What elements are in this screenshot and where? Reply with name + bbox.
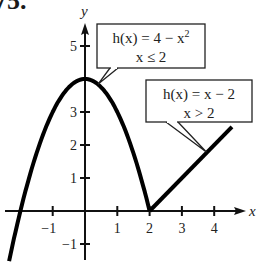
x-tick-label: 3 bbox=[178, 221, 185, 236]
y-tick-label: 1 bbox=[70, 171, 77, 186]
callout-line-2: x ≤ 2 bbox=[136, 49, 167, 65]
callout-line: h(x) = x − 2x > 2 bbox=[146, 80, 252, 152]
x-tick-label: −1 bbox=[41, 221, 56, 236]
y-tick-label: 5 bbox=[70, 39, 77, 54]
callout-line-1: h(x) = 4 − x2 bbox=[113, 28, 190, 47]
callout-parabola: h(x) = 4 − x2x ≤ 2 bbox=[97, 24, 205, 84]
exponent: 2 bbox=[184, 28, 189, 39]
callout-line-1: h(x) = x − 2 bbox=[163, 86, 235, 103]
callout-tail bbox=[166, 122, 206, 152]
y-tick-label: 2 bbox=[70, 138, 77, 153]
x-axis-label: x bbox=[248, 203, 256, 219]
piecewise-function-graph: xy−11234−11235 h(x) = 4 − x2x ≤ 2h(x) = … bbox=[0, 0, 260, 267]
callout-tail bbox=[98, 68, 118, 84]
callout-line-2: x > 2 bbox=[184, 105, 215, 121]
y-tick-label: 3 bbox=[70, 105, 77, 120]
x-tick-label: 1 bbox=[114, 221, 121, 236]
x-tick-label: 4 bbox=[211, 221, 218, 236]
parabola-curve bbox=[9, 79, 150, 261]
x-tick-label: 2 bbox=[146, 221, 153, 236]
y-axis-label: y bbox=[79, 3, 88, 19]
y-tick-label: −1 bbox=[62, 237, 77, 252]
